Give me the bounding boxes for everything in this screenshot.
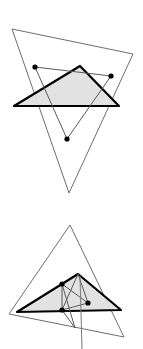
point-b-upper: [108, 73, 113, 78]
point-a-lower: [59, 281, 64, 286]
point-b-lower: [85, 300, 90, 305]
point-a-upper: [32, 64, 37, 69]
point-c-lower: [59, 307, 64, 312]
geometry-figure: [0, 0, 143, 349]
point-c-upper: [64, 136, 69, 141]
